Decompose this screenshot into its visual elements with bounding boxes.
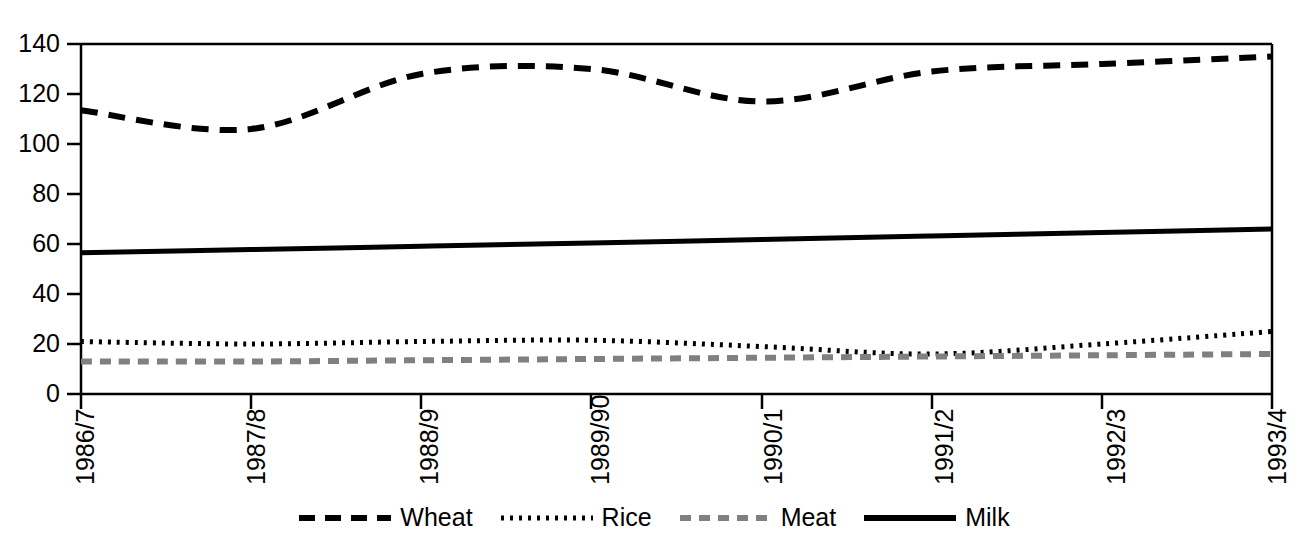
- chart-legend: Wheat Rice Meat Milk: [0, 505, 1307, 530]
- series-line-rice: [81, 332, 1272, 355]
- line-chart: 140 120 100 80 60 40 20 0 1986/7 1987/8 …: [0, 0, 1307, 547]
- legend-label-wheat: Wheat: [400, 505, 472, 530]
- gray-dashed-line-icon: [678, 512, 774, 524]
- legend-label-meat: Meat: [781, 505, 837, 530]
- dashed-line-icon: [297, 512, 393, 524]
- series-line-wheat: [81, 57, 1272, 131]
- x-axis-ticks: [81, 394, 1272, 409]
- legend-label-rice: Rice: [602, 505, 652, 530]
- legend-item-wheat[interactable]: Wheat: [297, 505, 472, 530]
- solid-line-icon: [862, 512, 958, 524]
- series-line-milk: [81, 229, 1272, 253]
- plot-area: [0, 0, 1307, 547]
- legend-label-milk: Milk: [965, 505, 1009, 530]
- dotted-line-icon: [499, 512, 595, 524]
- legend-item-meat[interactable]: Meat: [678, 505, 837, 530]
- y-axis-ticks: [67, 44, 81, 394]
- series-line-meat: [81, 354, 1272, 362]
- legend-item-rice[interactable]: Rice: [499, 505, 652, 530]
- legend-item-milk[interactable]: Milk: [862, 505, 1009, 530]
